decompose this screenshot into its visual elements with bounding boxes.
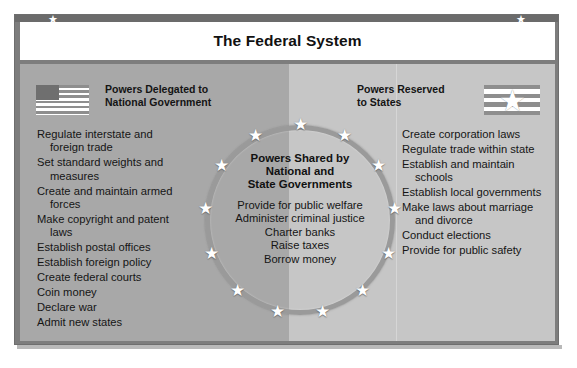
flag-canton (36, 85, 59, 100)
list-item: Provide for public safety (402, 244, 554, 257)
list-item: Declare war (37, 301, 189, 314)
shared-powers-title-line2: National and (216, 165, 384, 178)
list-item: Provide for public welfare (216, 199, 384, 213)
left-panel-heading: Powers Delegated to National Government (105, 83, 211, 108)
top-banner: ★ ★ (15, 15, 558, 22)
star-icon: ★ (499, 87, 526, 114)
federal-system-poster: ★ ★ The Federal System Powers Delegated … (14, 14, 559, 345)
star-icon: ★ (292, 117, 308, 133)
list-item: Create corporation laws (402, 128, 554, 141)
star-icon: ★ (203, 246, 219, 262)
star-icon: ★ (386, 201, 402, 217)
list-item: Admit new states (37, 316, 189, 329)
list-item: Establish postal offices (37, 241, 189, 254)
shared-powers-circle: Powers Shared by National and State Gove… (202, 122, 398, 318)
list-item: Create and maintain armed forces (37, 185, 189, 212)
star-icon: ★ (370, 158, 386, 174)
star-icon: ★ (214, 158, 230, 174)
list-item: Create federal courts (37, 271, 189, 284)
delegated-powers-list: Regulate interstate and foreign tradeSet… (37, 128, 189, 331)
reserved-powers-list: Create corporation lawsRegulate trade wi… (402, 128, 554, 259)
star-icon: ★ (269, 304, 285, 320)
star-icon: ★ (315, 304, 331, 320)
star-icon: ★ (381, 246, 397, 262)
list-item: Establish and maintain schools (402, 158, 554, 185)
list-item: Regulate interstate and foreign trade (37, 128, 189, 155)
page-title: The Federal System (213, 32, 361, 50)
list-item: Set standard weights and measures (37, 156, 189, 183)
list-item: Establish foreign policy (37, 256, 189, 269)
right-panel-heading-line2: to States (357, 96, 445, 109)
diagram-body: Powers Delegated to National Government … (20, 64, 555, 341)
list-item: Make copyright and patent laws (37, 213, 189, 240)
shared-powers-title-line1: Powers Shared by (216, 152, 384, 165)
left-panel-heading-line1: Powers Delegated to (105, 83, 211, 96)
right-panel-heading: Powers Reserved to States (357, 83, 445, 108)
list-item: Establish local governments (402, 186, 554, 199)
shared-powers-content: Powers Shared by National and State Gove… (216, 152, 384, 267)
star-icon: ★ (229, 283, 245, 299)
list-item: Borrow money (216, 253, 384, 267)
list-item: Coin money (37, 286, 189, 299)
list-item: Make laws about marriage and divorce (402, 201, 554, 228)
state-flag-star-icon: ★ (484, 85, 540, 115)
star-icon: ★ (336, 128, 352, 144)
star-icon: ★ (198, 201, 214, 217)
list-item: Charter banks (216, 226, 384, 240)
right-panel-heading-line1: Powers Reserved (357, 83, 445, 96)
shared-powers-title: Powers Shared by National and State Gove… (216, 152, 384, 192)
left-panel-heading-line2: National Government (105, 96, 211, 109)
shared-powers-list: Provide for public welfareAdminister cri… (216, 199, 384, 267)
list-item: Raise taxes (216, 239, 384, 253)
list-item: Conduct elections (402, 229, 554, 242)
list-item: Regulate trade within state (402, 143, 554, 156)
star-icon: ★ (248, 128, 264, 144)
shared-powers-title-line3: State Governments (216, 178, 384, 191)
us-flag-icon (36, 85, 89, 115)
star-icon: ★ (355, 283, 371, 299)
title-bar: The Federal System (20, 22, 555, 60)
poster-shadow (17, 345, 562, 349)
list-item: Administer criminal justice (216, 212, 384, 226)
